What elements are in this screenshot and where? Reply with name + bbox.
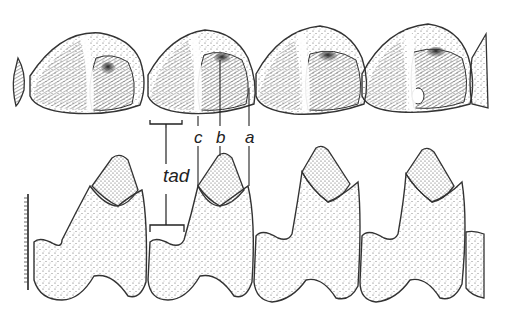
- label-a: a: [245, 129, 254, 146]
- occlusal-tooth-2: [148, 30, 255, 114]
- occlusal-row: [13, 24, 488, 114]
- occlusal-tooth-3: [256, 26, 367, 114]
- occlusal-tooth-partial-right: [470, 34, 488, 108]
- lateral-row: [24, 146, 484, 302]
- label-tad: tad: [163, 166, 189, 185]
- tooth-row-illustration: [0, 0, 505, 315]
- lateral-tooth-3: [254, 146, 360, 302]
- lateral-tooth-1: [34, 155, 147, 300]
- label-c: c: [194, 129, 203, 146]
- occlusal-tooth-1: [30, 33, 144, 114]
- scale-bar: [24, 194, 28, 290]
- lateral-tooth-partial-right: [466, 231, 484, 298]
- lateral-tooth-4: [360, 148, 465, 302]
- occlusal-tooth-partial-left: [13, 58, 24, 106]
- label-b: b: [216, 129, 225, 146]
- occlusal-tooth-4: [362, 24, 473, 112]
